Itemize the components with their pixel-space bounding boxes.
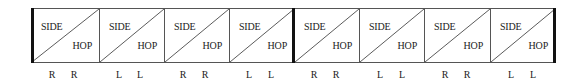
hop-label: HOP [138,40,157,51]
diagonal-line-icon [491,9,555,62]
foot-label: R [177,69,189,80]
hop-label: HOP [203,40,222,51]
side-label: SIDE [239,21,260,32]
side-label: SIDE [500,21,521,32]
foot-label: R [308,69,320,80]
foot-label: L [113,69,125,80]
hop-label: HOP [73,40,92,51]
side-label: SIDE [369,21,390,32]
foot-label: L [505,69,517,80]
pattern-cell-8: SIDE HOP [490,8,556,63]
foot-label: L [265,69,277,80]
diagonal-line-icon [100,9,164,62]
foot-label: L [134,69,146,80]
hop-label: HOP [268,40,287,51]
hop-label: HOP [464,40,483,51]
foot-label: R [461,69,473,80]
side-label: SIDE [174,21,195,32]
foot-label: R [439,69,451,80]
diagonal-line-icon [32,9,99,62]
foot-label: L [374,69,386,80]
diagonal-line-icon [295,9,359,62]
hop-label: HOP [398,40,417,51]
phrase-divider-bar [292,8,295,63]
pattern-cell-6: SIDE HOP [359,8,425,63]
pattern-cell-5: SIDE HOP [294,8,360,63]
phrase-start-bar [31,8,34,63]
side-label: SIDE [109,21,130,32]
pattern-cell-4: SIDE HOP [229,8,295,63]
pattern-cell-1: SIDE HOP [31,8,100,63]
side-label: SIDE [41,21,62,32]
foot-label: L [396,69,408,80]
foot-label: R [199,69,211,80]
diagonal-line-icon [425,9,490,62]
foot-label: R [330,69,342,80]
side-label: SIDE [434,21,455,32]
hop-label: HOP [333,40,352,51]
foot-label: L [243,69,255,80]
foot-label: R [68,69,80,80]
side-label: SIDE [304,21,325,32]
foot-label: R [46,69,58,80]
pattern-cell-2: SIDE HOP [99,8,165,63]
diagonal-line-icon [165,9,229,62]
diagonal-line-icon [360,9,424,62]
diagonal-line-icon [230,9,294,62]
foot-label: L [527,69,539,80]
pattern-cell-7: SIDE HOP [424,8,491,63]
pattern-cell-3: SIDE HOP [164,8,230,63]
phrase-end-bar [553,8,556,63]
hop-label: HOP [529,40,548,51]
